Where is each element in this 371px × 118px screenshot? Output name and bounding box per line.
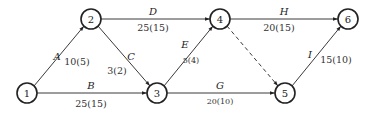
activity-H-name: H	[279, 6, 289, 17]
node-3-label: 3	[154, 88, 160, 99]
node-1-label: 1	[24, 88, 30, 99]
activity-I-name: I	[307, 49, 313, 60]
activity-C-value: 3(2)	[107, 65, 127, 76]
activity-I-value: 15(10)	[320, 54, 352, 65]
activity-H-value: 20(15)	[263, 22, 295, 33]
activity-G-name: G	[216, 80, 224, 91]
activity-A-value: 10(5)	[64, 56, 90, 67]
node-2: 2	[81, 9, 101, 29]
activity-E-name: E	[180, 39, 189, 50]
activity-D-name: D	[148, 6, 157, 17]
node-6-label: 6	[345, 14, 351, 25]
activity-B-name: B	[86, 80, 94, 91]
network-diagram: A 10(5) B 25(15) C 3(2) D 25(15) E 5(4) …	[0, 0, 371, 118]
edge-C	[98, 26, 150, 86]
node-1: 1	[17, 83, 37, 103]
edge-dummy-4-5	[227, 26, 278, 86]
activity-G-value: 20(10)	[207, 97, 234, 106]
activity-B-value: 25(15)	[75, 98, 107, 109]
node-3: 3	[147, 83, 167, 103]
node-6: 6	[338, 9, 358, 29]
activity-A-name: A	[52, 51, 60, 62]
activity-D-value: 25(15)	[137, 22, 169, 33]
node-5-label: 5	[282, 88, 288, 99]
node-2-label: 2	[88, 14, 94, 25]
node-4-label: 4	[217, 14, 223, 25]
activity-E-value: 5(4)	[183, 56, 199, 65]
node-5: 5	[275, 83, 295, 103]
node-4: 4	[210, 9, 230, 29]
activity-C-name: C	[127, 51, 135, 62]
